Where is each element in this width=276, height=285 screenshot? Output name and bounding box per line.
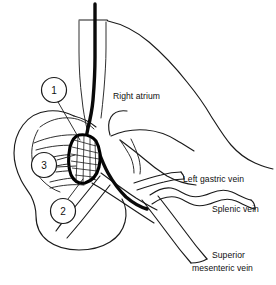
- label-right-atrium: Right atrium: [113, 91, 160, 101]
- callout-3[interactable]: 3: [32, 153, 57, 178]
- anatomy-illustration: 1 3 2 Right atrium Left gastric vein Spl…: [0, 0, 276, 285]
- callout-2[interactable]: 2: [51, 199, 76, 224]
- tips-anatomy-figure: 1 3 2 Right atrium Left gastric vein Spl…: [0, 0, 276, 285]
- leader-line-1: [58, 102, 80, 140]
- label-splenic-vein: Splenic vein: [212, 204, 259, 214]
- callout-3-label: 3: [41, 160, 47, 171]
- label-superior-mesenteric-vein-line2: mesenteric vein: [192, 263, 253, 273]
- label-left-gastric-vein: Left gastric vein: [183, 174, 244, 184]
- tips-stent-graft: [69, 135, 100, 184]
- callout-1-label: 1: [51, 85, 57, 96]
- callout-1[interactable]: 1: [42, 78, 67, 103]
- right-atrium-outline: [79, 20, 273, 169]
- label-superior-mesenteric-vein-line1: Superior: [212, 250, 245, 260]
- callout-2-label: 2: [60, 206, 66, 217]
